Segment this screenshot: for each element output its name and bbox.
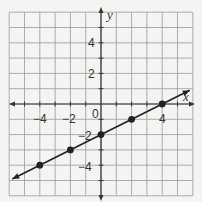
- y-axis-label: y: [105, 7, 113, 22]
- x-tick-label: −4: [33, 112, 47, 126]
- y-tick-label: −2: [78, 129, 92, 143]
- data-point: [128, 116, 135, 123]
- x-axis-label: x: [182, 89, 189, 104]
- data-point: [159, 101, 166, 108]
- data-point: [98, 131, 105, 138]
- y-tick-label: 4: [88, 36, 95, 50]
- data-point: [67, 147, 74, 154]
- x-tick-label: −2: [62, 112, 76, 126]
- y-tick-label: 2: [88, 67, 95, 81]
- origin-label: 0: [92, 107, 99, 121]
- coordinate-plane: y x 0 −4 −2 4 4 2 −2 −4: [0, 0, 202, 202]
- x-tick-label: 4: [159, 112, 166, 126]
- data-point: [36, 162, 43, 169]
- y-tick-label: −4: [78, 160, 92, 174]
